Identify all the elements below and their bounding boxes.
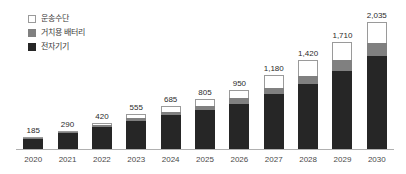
bar-stack[interactable]: 420 (92, 123, 112, 149)
bar-group[interactable]: 950 (229, 8, 249, 149)
bar-segment-electronics[interactable] (92, 127, 112, 149)
x-tick-label: 2022 (85, 155, 119, 164)
x-axis-tick-labels: 2020202120222023202420252026202720282029… (16, 152, 394, 172)
bar-segment-transport[interactable] (229, 90, 249, 99)
bar-group[interactable]: 290 (58, 8, 78, 149)
bar-segment-electronics[interactable] (23, 139, 43, 149)
bar-value-label: 805 (198, 88, 211, 97)
bar-group[interactable]: 2,035 (367, 8, 387, 149)
bar-segment-stationary[interactable] (367, 43, 387, 56)
bar-segment-electronics[interactable] (332, 71, 352, 149)
bar-value-label: 685 (164, 95, 177, 104)
bar-value-label: 290 (61, 120, 74, 129)
bar-segment-electronics[interactable] (161, 115, 181, 149)
x-tick-label: 2025 (188, 155, 222, 164)
bar-stack[interactable]: 1,710 (332, 42, 352, 149)
bar-stack[interactable]: 555 (126, 114, 146, 149)
bar-segment-electronics[interactable] (264, 94, 284, 149)
stacked-bar-chart: 운송수단거치용 배터리전자기기 1852904205556858059501,1… (0, 0, 406, 174)
bar-segment-electronics[interactable] (298, 84, 318, 149)
x-tick-label: 2023 (119, 155, 153, 164)
bar-group[interactable]: 1,420 (298, 8, 318, 149)
x-tick-label: 2024 (153, 155, 187, 164)
bar-group[interactable]: 185 (23, 8, 43, 149)
bar-segment-electronics[interactable] (195, 110, 215, 149)
bar-value-label: 1,710 (332, 31, 352, 40)
bar-stack[interactable]: 1,180 (264, 75, 284, 149)
bar-segment-transport[interactable] (367, 22, 387, 43)
bar-stack[interactable]: 950 (229, 90, 249, 149)
bar-stack[interactable]: 290 (58, 131, 78, 149)
bar-value-label: 1,420 (298, 49, 318, 58)
bar-segment-electronics[interactable] (367, 56, 387, 149)
bar-segment-electronics[interactable] (229, 104, 249, 149)
bar-segment-stationary[interactable] (332, 60, 352, 70)
bar-value-label: 420 (95, 112, 108, 121)
x-tick-label: 2028 (291, 155, 325, 164)
bar-value-label: 2,035 (367, 11, 387, 20)
bar-segment-stationary[interactable] (298, 76, 318, 84)
x-tick-label: 2026 (222, 155, 256, 164)
x-tick-label: 2029 (325, 155, 359, 164)
x-tick-label: 2030 (360, 155, 394, 164)
bar-group[interactable]: 1,180 (264, 8, 284, 149)
bar-stack[interactable]: 685 (161, 106, 181, 149)
bar-group[interactable]: 555 (126, 8, 146, 149)
bar-value-label: 185 (26, 126, 39, 135)
bar-segment-electronics[interactable] (58, 133, 78, 149)
bar-stack[interactable]: 2,035 (367, 22, 387, 149)
x-tick-label: 2021 (50, 155, 84, 164)
bar-segment-transport[interactable] (195, 99, 215, 106)
bar-segment-transport[interactable] (332, 42, 352, 60)
bar-group[interactable]: 685 (161, 8, 181, 149)
bar-stack[interactable]: 805 (195, 99, 215, 149)
plot-area: 1852904205556858059501,1801,4201,7102,03… (16, 8, 394, 149)
bar-segment-transport[interactable] (264, 75, 284, 87)
bar-value-label: 1,180 (264, 64, 284, 73)
bar-value-label: 950 (233, 79, 246, 88)
bar-segment-electronics[interactable] (126, 121, 146, 149)
bar-stack[interactable]: 1,420 (298, 60, 318, 149)
bar-value-label: 555 (130, 103, 143, 112)
x-tick-label: 2020 (16, 155, 50, 164)
bar-stack[interactable]: 185 (23, 137, 43, 149)
bar-group[interactable]: 805 (195, 8, 215, 149)
bar-group[interactable]: 1,710 (332, 8, 352, 149)
x-tick-label: 2027 (257, 155, 291, 164)
bar-segment-transport[interactable] (298, 60, 318, 76)
x-axis-line (16, 149, 394, 150)
bar-group[interactable]: 420 (92, 8, 112, 149)
